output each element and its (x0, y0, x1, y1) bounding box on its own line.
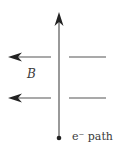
electron-path-label: e⁻ path (72, 130, 113, 143)
magnetic-field-label: B (27, 67, 36, 81)
electron-start-dot (57, 136, 62, 141)
